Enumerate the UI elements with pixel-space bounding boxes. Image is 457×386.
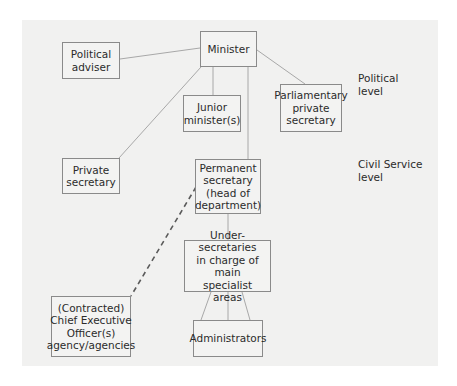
node-under-secretaries: Under-secretaries in charge of main spec…	[184, 240, 271, 292]
node-label: Permanent secretary (head of department)	[195, 162, 261, 212]
node-administrators: Administrators	[193, 320, 263, 357]
node-label: Junior minister(s)	[184, 101, 241, 126]
node-junior-minister: Junior minister(s)	[183, 95, 241, 132]
node-label: Parliamentary private secretary	[274, 89, 347, 127]
node-minister: Minister	[200, 31, 257, 67]
node-label: (Contracted) Chief Executive Officer(s) …	[47, 302, 136, 352]
node-label: Political adviser	[71, 48, 111, 73]
edge-minister-parliamentary-secretary	[257, 50, 305, 84]
node-label: Private secretary	[66, 164, 115, 189]
edge-minister-political-adviser	[120, 48, 200, 59]
label-civil-service-level: Civil Service level	[358, 158, 422, 184]
label-political-level: Political level	[358, 72, 398, 98]
node-label: Minister	[208, 43, 250, 56]
node-label: Under-secretaries in charge of main spec…	[187, 229, 268, 304]
node-parliamentary-private-secretary: Parliamentary private secretary	[280, 84, 342, 132]
node-private-secretary: Private secretary	[62, 158, 120, 194]
node-chief-executive: (Contracted) Chief Executive Officer(s) …	[51, 296, 131, 357]
node-label: Administrators	[189, 332, 266, 345]
node-permanent-secretary: Permanent secretary (head of department)	[195, 159, 261, 214]
node-political-adviser: Political adviser	[62, 42, 120, 79]
